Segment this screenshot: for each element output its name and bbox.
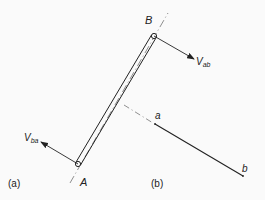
velocity-ab-arrow bbox=[154, 36, 194, 59]
label-b: B bbox=[145, 14, 152, 26]
label-v-ba: Vba bbox=[24, 132, 39, 144]
link-velocity-diagram: B A Vab Vba a b (a) (b) bbox=[0, 0, 265, 200]
panel-a-caption: (a) bbox=[8, 178, 20, 189]
velocity-image-group: a b bbox=[124, 105, 248, 177]
label-a: A bbox=[79, 176, 87, 188]
point-b-dot bbox=[242, 175, 244, 177]
bar-edge-left bbox=[76, 35, 152, 163]
bar-edge-right bbox=[81, 37, 157, 165]
bar-ab-group: B A Vab Vba bbox=[24, 13, 211, 188]
velocity-ba-arrow bbox=[41, 142, 78, 164]
point-a-dot bbox=[154, 123, 156, 125]
label-v-ab: Vab bbox=[196, 56, 211, 68]
label-point-a: a bbox=[155, 110, 161, 121]
label-point-b: b bbox=[242, 163, 248, 174]
velocity-line-ab bbox=[155, 124, 243, 176]
panel-b-caption: (b) bbox=[151, 178, 163, 189]
velocity-construction-line bbox=[124, 105, 153, 123]
